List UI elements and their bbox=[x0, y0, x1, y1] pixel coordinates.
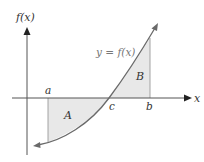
y-axis-arrow-icon bbox=[24, 27, 31, 35]
region-label-b: B bbox=[135, 70, 144, 83]
y-axis-label: f(x) bbox=[15, 11, 35, 24]
curve-label: y = f(x) bbox=[95, 46, 135, 58]
point-label-b: b bbox=[146, 100, 153, 112]
curve-start-arrow-icon bbox=[33, 142, 41, 148]
x-axis-label: x bbox=[194, 92, 201, 105]
area-under-curve-diagram: f(x) x y = f(x) a c b A B bbox=[0, 0, 204, 162]
point-label-c: c bbox=[109, 100, 115, 112]
region-label-a: A bbox=[63, 109, 72, 122]
curve-end-arrow-icon bbox=[152, 23, 159, 31]
x-axis-arrow-icon bbox=[184, 95, 192, 102]
region-a-shading bbox=[48, 98, 109, 142]
point-label-a: a bbox=[45, 84, 51, 96]
